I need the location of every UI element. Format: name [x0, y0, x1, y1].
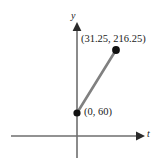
data-point-lower — [73, 109, 80, 116]
y-axis-label: y — [71, 11, 75, 21]
graph-figure: y t (31.25, 216.25) (0, 60) — [0, 0, 159, 165]
lower-point-label: (0, 60) — [84, 107, 112, 118]
data-segment — [77, 50, 116, 113]
x-axis-arrowhead — [136, 132, 145, 141]
data-point-upper — [112, 46, 120, 54]
y-axis-arrowhead — [73, 22, 82, 31]
x-axis-label: t — [147, 129, 150, 139]
upper-point-label: (31.25, 216.25) — [81, 34, 146, 45]
x-axis — [11, 132, 145, 141]
coordinate-plot — [0, 0, 159, 165]
